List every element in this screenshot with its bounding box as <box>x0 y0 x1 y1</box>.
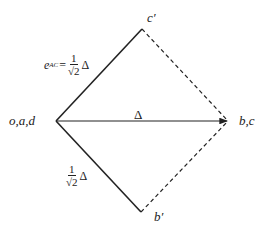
edge-bottom-right-dashed <box>141 121 228 212</box>
lower-num: 1 <box>68 164 76 176</box>
upper-fraction: 1 √2 <box>68 53 80 77</box>
edge-top-right-dashed <box>142 29 228 121</box>
upper-den: √2 <box>68 65 80 77</box>
lower-den: √2 <box>66 176 78 188</box>
lower-delta: Δ <box>80 170 88 182</box>
upper-edge-label: eAC = 1 √2 Δ <box>44 53 89 77</box>
lower-edge-label: 1 √2 Δ <box>64 164 87 188</box>
lower-fraction: 1 √2 <box>66 164 78 188</box>
upper-eq: = <box>59 59 66 71</box>
vertex-label-bottom: b′ <box>154 210 163 223</box>
vertex-label-origin: o,a,d <box>9 114 35 127</box>
vertex-label-right: b,c <box>239 114 255 127</box>
vertex-label-top: c′ <box>147 11 156 24</box>
upper-subscript: AC <box>49 62 58 69</box>
upper-delta: Δ <box>82 59 90 71</box>
upper-num: 1 <box>70 53 78 65</box>
delta-label: Δ <box>134 108 142 121</box>
